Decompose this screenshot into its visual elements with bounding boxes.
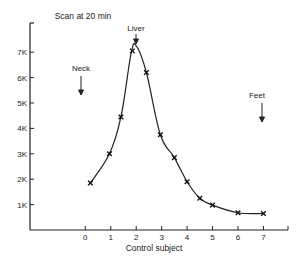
x-tick: 5 [210, 226, 215, 242]
x-tick-label: 6 [236, 233, 241, 242]
x-tick: 4 [185, 226, 190, 242]
liver-arrow-icon [134, 34, 139, 44]
x-tick: 0 [83, 226, 88, 242]
x-tick-label: 0 [83, 233, 88, 242]
y-tick-label: 5K [17, 99, 27, 108]
y-tick: 6K [17, 74, 34, 83]
x-ticks: 01234567 [83, 226, 288, 242]
x-tick: 6 [236, 226, 241, 242]
data-point-x-marker [185, 179, 190, 184]
x-tick-label: 4 [185, 233, 190, 242]
data-markers [88, 49, 266, 216]
x-tick: 1 [109, 226, 114, 242]
x-tick-label: 7 [261, 233, 266, 242]
data-point-x-marker [172, 155, 177, 160]
feet-arrow-icon [260, 103, 265, 122]
chart: 1K2K3K4K5K6K7K 01234567 Scan at 20 min C… [0, 0, 302, 261]
y-tick: 3K [17, 150, 34, 159]
x-tick: 2 [134, 226, 139, 242]
data-point-x-marker [88, 181, 93, 186]
annotation-liver: Liver [127, 24, 145, 33]
y-tick-label: 4K [17, 124, 27, 133]
fitted-curve [90, 43, 263, 213]
x-axis-label: Control subject [126, 243, 183, 253]
y-tick: 7K [17, 48, 34, 57]
annotation-neck: Neck [72, 64, 91, 73]
y-tick: 5K [17, 99, 34, 108]
data-point-x-marker [107, 152, 112, 157]
data-point-x-marker [198, 196, 203, 201]
chart-title: Scan at 20 min [55, 11, 112, 21]
x-tick: 3 [159, 226, 164, 242]
y-ticks: 1K2K3K4K5K6K7K [17, 48, 34, 209]
x-tick: 7 [261, 226, 266, 242]
y-tick: 4K [17, 124, 34, 133]
x-tick-label: 1 [109, 233, 114, 242]
y-tick: 2K [17, 175, 34, 184]
y-tick-label: 2K [17, 175, 27, 184]
x-tick-label: 2 [134, 233, 139, 242]
y-axis [30, 23, 34, 230]
y-tick-label: 1K [17, 201, 27, 210]
annotation-feet: Feet [249, 91, 266, 100]
x-tick-label: 3 [159, 233, 164, 242]
y-tick: 1K [17, 201, 34, 210]
y-tick-label: 7K [17, 48, 27, 57]
neck-arrow-icon [79, 76, 84, 95]
y-tick-label: 3K [17, 150, 27, 159]
x-tick-label: 5 [210, 233, 215, 242]
y-tick-label: 6K [17, 74, 27, 83]
